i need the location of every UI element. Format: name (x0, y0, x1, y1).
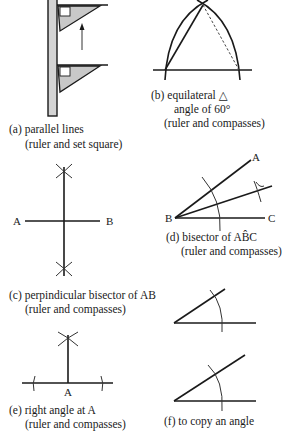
ruler (48, 0, 57, 116)
original-ray-upper (174, 289, 225, 323)
panel-b-equilateral-triangle: (b) equilateral △ angle of 60° (ruler an… (151, 0, 265, 130)
point-b-label: B (106, 215, 113, 227)
caption-a-line2: (ruler and set square) (25, 138, 123, 151)
panel-a-parallel-lines: (a) parallel lines (ruler and set square… (9, 0, 123, 151)
panel-d-angle-bisector: A B C (d) bisector of AB̂C (ruler and co… (165, 151, 282, 258)
right-angle-marker-top (60, 7, 70, 16)
point-a-label: A (252, 151, 260, 163)
side-dashed (203, 5, 239, 70)
caption-b-line1: (b) equilateral △ (151, 89, 228, 102)
panel-c-perpendicular-bisector: A B (c) perpindicular bisector of AB (ru… (9, 164, 156, 316)
up-arrow-icon (80, 23, 85, 30)
point-a-label: A (64, 386, 72, 398)
caption-b-line3: (ruler and compasses) (164, 117, 265, 130)
ray-ba (175, 160, 251, 218)
right-angle-marker-bottom (60, 67, 70, 76)
caption-e-line2: (ruler and compasses) (25, 418, 126, 431)
point-a-label: A (13, 215, 21, 227)
side-solid (165, 5, 203, 70)
point-c-label: C (268, 212, 275, 224)
caption-b-line2: angle of 60° (174, 103, 231, 116)
caption-d-line1: (d) bisector of AB̂C (166, 230, 257, 244)
original-arc (210, 290, 222, 332)
point-b-label: B (165, 212, 172, 224)
caption-e-line1: (e) right angle at A (9, 404, 97, 417)
arc-left (197, 0, 240, 80)
geometric-constructions-figure: (a) parallel lines (ruler and set square… (0, 0, 298, 432)
caption-a-line1: (a) parallel lines (9, 123, 84, 136)
caption-c-line1: (c) perpindicular bisector of AB (9, 289, 156, 302)
panel-f-copy-angle: (f) to copy an angle (164, 289, 256, 428)
caption-f-line1: (f) to copy an angle (164, 415, 254, 428)
caption-c-line2: (ruler and compasses) (25, 303, 126, 316)
arc-right (165, 0, 208, 80)
panel-e-right-angle: A (e) right angle at A (ruler and compas… (9, 332, 126, 431)
copy-ray-upper (174, 355, 245, 401)
caption-d-line2: (ruler and compasses) (181, 245, 282, 258)
